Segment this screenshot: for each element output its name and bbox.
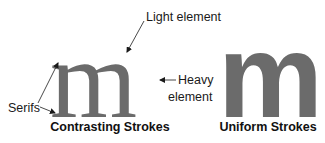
typography-stroke-diagram: m m Light element Heavy element Serifs C… <box>0 0 325 143</box>
heavy-element-label-line2: element <box>168 90 213 104</box>
diagram-svg: m m Light element Heavy element Serifs C… <box>0 0 325 143</box>
light-element-label: Light element <box>146 10 222 24</box>
serifs-label: Serifs <box>8 101 40 115</box>
heavy-element-label-line1: Heavy <box>178 73 214 87</box>
contrasting-strokes-caption: Contrasting Strokes <box>50 120 170 134</box>
uniform-strokes-caption: Uniform Strokes <box>219 120 316 134</box>
